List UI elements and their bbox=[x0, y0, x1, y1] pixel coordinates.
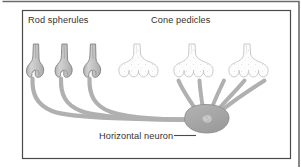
label-cone-pedicles: Cone pedicles bbox=[151, 15, 211, 25]
label-horizontal-neuron: Horizontal neuron bbox=[99, 131, 173, 141]
label-rod-spherules: Rod spherules bbox=[28, 15, 89, 25]
retina-synapse-diagram: Rod spherules Cone pedicles bbox=[0, 0, 301, 168]
figure-container: Rod spherules Cone pedicles bbox=[0, 0, 301, 168]
nucleus-icon bbox=[202, 115, 211, 123]
horizontal-neuron-soma bbox=[185, 105, 229, 134]
